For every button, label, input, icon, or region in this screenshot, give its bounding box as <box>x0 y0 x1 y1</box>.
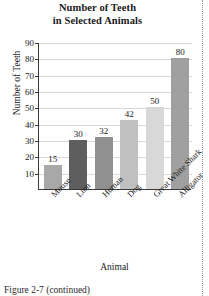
bar-value-label: 80 <box>176 47 185 57</box>
page-edge-rule <box>202 0 203 296</box>
y-axis-tick-label: 70 <box>14 71 34 81</box>
y-axis-tick <box>35 76 39 77</box>
gridline <box>39 92 192 93</box>
y-axis-tick-label: 60 <box>14 87 34 97</box>
bar-value-label: 30 <box>74 129 83 139</box>
bar-value-label: 42 <box>125 109 134 119</box>
y-axis-tick <box>35 92 39 93</box>
y-axis-tick <box>35 125 39 126</box>
gridline <box>39 43 192 44</box>
gridline <box>39 108 192 109</box>
bar-value-label: 50 <box>150 96 159 106</box>
bar-value-label: 32 <box>99 126 108 136</box>
gridline <box>39 157 192 158</box>
x-axis-title: Animal <box>38 262 191 272</box>
y-axis-tick-label: 10 <box>14 169 34 179</box>
bar[interactable]: 50 <box>146 107 164 189</box>
bar-value-label: 15 <box>48 154 57 164</box>
gridline <box>39 59 192 60</box>
y-axis-tick-label: 40 <box>14 120 34 130</box>
y-axis-tick-label: 80 <box>14 54 34 64</box>
y-axis-tick <box>35 141 39 142</box>
gridline <box>39 125 192 126</box>
gridline <box>39 141 192 142</box>
gridline <box>39 76 192 77</box>
y-axis-tick <box>35 174 39 175</box>
y-axis-tick-label: 50 <box>14 103 34 113</box>
figure-caption: Figure 2-7 (continued) <box>4 285 90 295</box>
y-axis-tick-label: 30 <box>14 136 34 146</box>
plot-area: 102030405060708090153032425080 <box>38 43 191 190</box>
y-axis-tick <box>35 59 39 60</box>
y-axis-tick <box>35 157 39 158</box>
chart-title: Number of Teeth in Selected Animals <box>0 2 195 27</box>
y-axis-tick-label: 20 <box>14 152 34 162</box>
chart-title-line-2: in Selected Animals <box>0 15 195 28</box>
y-axis-tick <box>35 108 39 109</box>
y-axis-tick <box>35 43 39 44</box>
chart-title-line-1: Number of Teeth <box>0 2 195 15</box>
y-axis-tick-label: 90 <box>14 38 34 48</box>
